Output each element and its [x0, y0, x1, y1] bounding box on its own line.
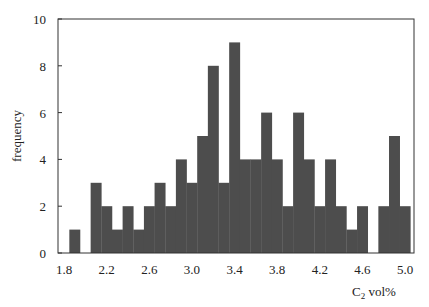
histogram-bar: [325, 159, 336, 253]
histogram-bar: [187, 183, 198, 253]
y-tick-label: 10: [33, 12, 46, 27]
histogram-bar: [229, 42, 240, 253]
histogram-bar: [240, 159, 251, 253]
histogram-bar: [346, 230, 357, 253]
histogram-bar: [176, 159, 187, 253]
histogram-bar: [400, 206, 411, 253]
histogram-bar: [112, 230, 123, 253]
x-axis: 1.82.22.63.03.43.84.24.65.0: [56, 262, 413, 277]
histogram-bar: [250, 159, 261, 253]
x-tick-label: 3.0: [184, 262, 200, 277]
histogram-bar: [261, 113, 272, 253]
x-tick-label: 4.2: [312, 262, 328, 277]
histogram-bar: [272, 159, 283, 253]
y-tick-label: 6: [40, 106, 47, 121]
histogram-bar: [314, 206, 325, 253]
histogram-chart: 0246810 1.82.22.63.03.43.84.24.65.0 freq…: [0, 0, 429, 307]
y-tick-label: 2: [40, 199, 47, 214]
x-axis-label: C2 vol%: [352, 284, 396, 301]
x-tick-label: 2.2: [99, 262, 115, 277]
histogram-bar: [123, 206, 134, 253]
histogram-bars: [69, 42, 410, 253]
histogram-bar: [101, 206, 112, 253]
histogram-bar: [133, 230, 144, 253]
histogram-bar: [293, 113, 304, 253]
x-tick-label: 3.4: [226, 262, 243, 277]
histogram-bar: [357, 206, 368, 253]
y-tick-label: 8: [40, 59, 47, 74]
x-tick-label: 3.8: [269, 262, 285, 277]
histogram-bar: [208, 66, 219, 253]
x-tick-label: 5.0: [397, 262, 413, 277]
y-tick-label: 0: [40, 246, 47, 261]
x-tick-label: 1.8: [56, 262, 72, 277]
x-tick-label: 4.6: [354, 262, 371, 277]
histogram-bar: [389, 136, 400, 253]
histogram-bar: [91, 183, 102, 253]
x-tick-label: 2.6: [141, 262, 158, 277]
histogram-bar: [378, 206, 389, 253]
histogram-bar: [304, 159, 315, 253]
y-tick-label: 4: [40, 152, 47, 167]
histogram-bar: [219, 183, 230, 253]
histogram-bar: [336, 206, 347, 253]
histogram-bar: [69, 230, 80, 253]
histogram-bar: [282, 206, 293, 253]
y-axis-label: frequency: [9, 110, 24, 162]
histogram-bar: [155, 183, 166, 253]
histogram-bar: [197, 136, 208, 253]
histogram-bar: [144, 206, 155, 253]
histogram-bar: [165, 206, 176, 253]
